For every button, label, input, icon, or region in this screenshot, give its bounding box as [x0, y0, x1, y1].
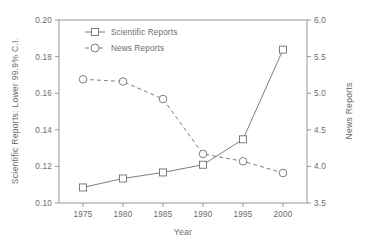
series-line-scientific-reports	[83, 50, 283, 188]
data-point-marker-scientific-reports	[200, 161, 207, 168]
y-axis-left-tick-label: 0.12	[35, 162, 52, 171]
data-point-marker-news-reports	[279, 169, 287, 177]
y-axis-left-tick-label: 0.10	[35, 199, 52, 208]
y-axis-left-tick-label: 0.20	[35, 16, 52, 25]
data-point-marker-scientific-reports	[240, 136, 247, 143]
data-point-marker-scientific-reports	[280, 46, 287, 53]
y-axis-right-tick-labels: 3.54.04.55.05.56.0	[314, 16, 326, 208]
line-chart: 0.100.120.140.160.180.20 3.54.04.55.05.5…	[0, 0, 369, 249]
x-axis-tick-labels: 197519801985199019952000	[73, 210, 292, 219]
legend-label-news-reports: News Reports	[111, 44, 164, 53]
chart-legend: Scientific Reports News Reports	[85, 28, 177, 53]
data-point-marker-scientific-reports	[160, 169, 167, 176]
y-axis-right-tick-label: 4.0	[314, 162, 326, 171]
y-axis-right-tick-label: 4.5	[314, 126, 326, 135]
data-point-marker-news-reports	[159, 95, 167, 103]
data-point-marker-news-reports	[239, 157, 247, 165]
legend-marker-square-icon	[92, 29, 99, 36]
y-axis-left-tick-label: 0.18	[35, 53, 52, 62]
y-axis-right-tick-label: 3.5	[314, 199, 326, 208]
series-line-news-reports	[83, 79, 283, 173]
data-point-marker-news-reports	[199, 150, 207, 158]
data-point-marker-news-reports	[79, 75, 87, 83]
x-axis-tick-label: 2000	[273, 210, 292, 219]
chart-container: 0.100.120.140.160.180.20 3.54.04.55.05.5…	[0, 0, 369, 249]
y-axis-left-ticks	[55, 20, 59, 203]
y-axis-left-tick-labels: 0.100.120.140.160.180.20	[35, 16, 52, 208]
data-point-marker-scientific-reports	[120, 175, 127, 182]
legend-item-scientific-reports: Scientific Reports	[85, 28, 177, 37]
y-axis-left-title: Scientific Reports: Lower 99.9% C.I.	[10, 38, 20, 185]
y-axis-left-tick-label: 0.14	[35, 126, 52, 135]
y-axis-right-tick-label: 5.0	[314, 89, 326, 98]
x-axis-title: Year	[174, 227, 192, 237]
legend-item-news-reports: News Reports	[85, 44, 164, 53]
y-axis-right-tick-label: 6.0	[314, 16, 326, 25]
legend-marker-circle-icon	[91, 44, 99, 52]
series-layer	[79, 46, 287, 191]
x-axis-ticks	[83, 203, 283, 207]
x-axis-tick-label: 1995	[233, 210, 252, 219]
y-axis-right-ticks	[307, 20, 311, 203]
y-axis-left-tick-label: 0.16	[35, 89, 52, 98]
data-point-marker-news-reports	[119, 78, 127, 86]
y-axis-right-title: News Reports	[344, 83, 354, 140]
y-axis-right-tick-label: 5.5	[314, 53, 326, 62]
x-axis-tick-label: 1980	[113, 210, 132, 219]
legend-label-scientific-reports: Scientific Reports	[111, 28, 177, 37]
x-axis-tick-label: 1985	[153, 210, 172, 219]
x-axis-tick-label: 1990	[193, 210, 212, 219]
x-axis-tick-label: 1975	[73, 210, 92, 219]
data-point-marker-scientific-reports	[80, 184, 87, 191]
